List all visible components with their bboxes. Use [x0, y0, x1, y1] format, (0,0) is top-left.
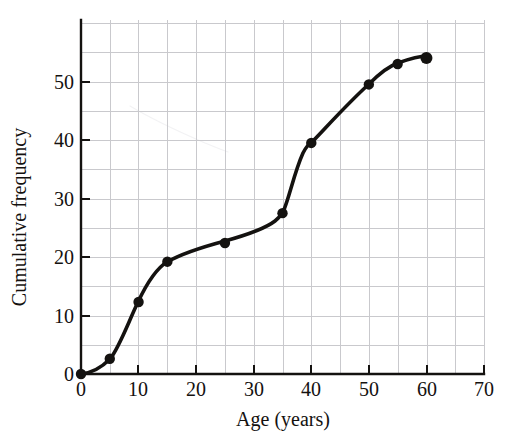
data-point [105, 354, 115, 364]
y-tick-label-10: 10 [54, 306, 74, 326]
data-point [220, 238, 230, 248]
x-tick-label-60: 60 [417, 379, 437, 399]
data-point [306, 138, 316, 148]
x-tick-label-70: 70 [474, 379, 494, 399]
data-point [277, 208, 287, 218]
data-point [364, 79, 374, 89]
y-tick-label-40: 40 [54, 130, 74, 150]
x-tick-label-20: 20 [186, 379, 206, 399]
scan-artifact [130, 106, 228, 152]
x-tick-label-30: 30 [244, 379, 264, 399]
data-point [392, 59, 402, 69]
data-point [162, 256, 172, 266]
data-point [420, 52, 432, 64]
y-tick-label-0: 0 [64, 364, 74, 384]
plot-area [0, 0, 507, 441]
cumulative-frequency-chart: 0 10 20 30 40 50 0 10 20 30 40 50 60 70 … [0, 0, 507, 441]
x-tick-label-10: 10 [128, 379, 148, 399]
x-tick-label-50: 50 [359, 379, 379, 399]
x-axis-title: Age (years) [236, 408, 330, 431]
gridlines [81, 20, 484, 374]
y-axis-title: Cumulative frequency [8, 128, 31, 306]
y-tick-label-30: 30 [54, 189, 74, 209]
data-point [133, 297, 143, 307]
y-tick-label-50: 50 [54, 72, 74, 92]
x-tick-label-0: 0 [76, 379, 86, 399]
x-tick-label-40: 40 [301, 379, 321, 399]
y-tick-label-20: 20 [54, 247, 74, 267]
